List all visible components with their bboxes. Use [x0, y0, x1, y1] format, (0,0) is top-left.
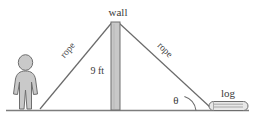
wall-height-label: 9 ft: [90, 65, 104, 76]
log-shape: [209, 102, 248, 111]
angle-label: θ: [173, 94, 178, 106]
diagram-root: wall rope rope 9 ft θ log: [0, 0, 260, 124]
rope-right-label: rope: [156, 40, 175, 59]
rope-right-line: [119, 23, 211, 108]
log-body: [209, 102, 248, 111]
rope-left-label: rope: [58, 40, 77, 59]
person-head: [18, 55, 32, 71]
wall-shape: [111, 22, 120, 110]
person-figure: [14, 55, 38, 109]
angle-arc: [184, 97, 196, 111]
wall-label: wall: [109, 6, 128, 18]
rope-wall-log-diagram: wall rope rope 9 ft θ log: [0, 0, 260, 124]
log-label: log: [221, 87, 236, 99]
person-body: [14, 71, 38, 109]
